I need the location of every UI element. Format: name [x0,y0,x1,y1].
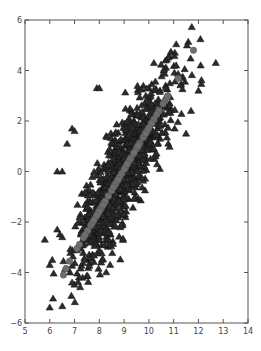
triangle-marker [60,258,67,264]
circle-marker [124,161,130,167]
x-tick-label: 7 [72,327,77,336]
triangle-marker [95,265,102,271]
triangle-marker [187,107,194,113]
circle-marker [135,142,141,148]
triangle-marker [188,72,195,78]
triangle-marker [171,125,178,131]
circle-marker [164,93,170,99]
triangle-marker [109,249,116,255]
triangle-marker [64,140,71,146]
circle-marker [91,217,97,223]
triangle-marker [59,168,66,174]
circle-marker [154,111,160,117]
circle-marker [142,130,148,136]
circle-marker [100,202,106,208]
triangle-marker [173,41,180,47]
triangle-marker [107,261,114,267]
y-tick-label: 6 [17,16,22,25]
circle-marker [110,184,116,190]
triangle-marker [50,270,57,276]
x-tick-label: 13 [218,327,228,336]
x-tick-label: 10 [144,327,154,336]
triangle-marker [54,226,61,232]
triangle-marker [181,66,188,72]
y-tick-label: −4 [10,269,22,278]
y-tick-label: 0 [17,168,22,177]
x-tick-label: 9 [122,327,127,336]
triangle-marker [167,117,174,123]
triangle-marker [195,87,202,93]
triangle-marker [49,295,56,301]
triangle-marker [188,23,195,29]
x-tick-label: 11 [169,327,179,336]
triangle-marker [198,77,205,83]
triangle-marker [182,130,189,136]
x-tick-label: 8 [97,327,102,336]
y-axis-tick-labels: −6−4−20246 [10,16,22,328]
circle-marker [131,149,137,155]
triangle-marker [59,303,66,309]
circle-marker [66,258,72,264]
circle-marker [190,47,196,53]
x-tick-label: 5 [22,327,27,336]
triangle-marker [174,118,181,124]
circle-marker [82,232,88,238]
triangle-marker [122,89,129,95]
triangle-marker [197,36,204,42]
triangle-marker [96,271,103,277]
triangle-marker [150,59,157,65]
x-tick-label: 14 [243,327,253,336]
triangle-marker [129,204,136,210]
triangle-marker [46,304,53,310]
circle-marker [63,266,69,272]
triangle-marker [187,55,194,61]
circle-marker [175,75,181,81]
circle-marker [76,241,82,247]
triangle-marker [49,256,56,262]
triangle-marker [103,269,110,275]
plot-area [41,23,219,310]
circle-marker [160,101,166,107]
triangle-marker [71,299,78,305]
triangle-marker [197,62,204,68]
y-tick-label: −2 [10,218,22,227]
x-axis-tick-labels: 567891011121314 [22,327,253,336]
triangle-marker [41,236,48,242]
y-tick-label: 2 [17,117,22,126]
circle-marker [60,272,66,278]
triangle-marker [178,110,185,116]
triangle-marker [117,256,124,262]
triangle-marker [74,201,81,207]
triangle-marker [68,292,75,298]
y-tick-label: 4 [17,67,22,76]
circle-marker [105,193,111,199]
triangle-marker [94,160,101,166]
x-tick-label: 12 [193,327,203,336]
scatter-chart: 567891011121314 −6−4−20246 [0,0,261,351]
x-tick-label: 6 [47,327,52,336]
triangle-marker [212,59,219,65]
circle-marker [115,177,121,183]
y-tick-label: −6 [10,319,22,328]
